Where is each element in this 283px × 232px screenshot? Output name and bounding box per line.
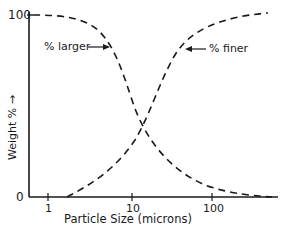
finer-annotation: % finer (209, 43, 248, 54)
y-tick-label-0: 0 (16, 191, 24, 203)
x-axis-title: Particle Size (microns) (64, 214, 192, 226)
series-percent-finer (67, 13, 268, 197)
x-tick-label-1: 1 (45, 203, 52, 214)
y-tick-label-100: 100 (8, 9, 31, 21)
chart-canvas (0, 0, 283, 232)
x-tick-label-100: 100 (203, 203, 224, 214)
finer-arrowhead-icon (185, 46, 192, 52)
y-axis-title: Weight % → (6, 100, 20, 160)
larger-annotation: % larger (44, 41, 90, 52)
